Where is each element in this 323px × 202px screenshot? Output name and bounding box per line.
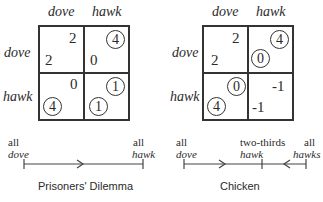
chicken-cell-dd-bottom: 2: [211, 53, 219, 68]
pd-row-label-dove: dove: [4, 45, 30, 61]
chicken-row-label-dove: dove: [172, 45, 198, 61]
chicken-line-mid-label-two-thirds: two-thirds: [240, 136, 285, 148]
chicken-cell-hh-top: -1: [272, 79, 285, 94]
pd-cell-dh-bottom: 0: [90, 53, 98, 68]
chicken-caption: Chicken: [220, 180, 260, 192]
pd-dynamics-line: [0, 155, 160, 173]
pd-payoff-matrix: 2 2 4 0 0 4 1 1: [38, 25, 130, 121]
chicken-line-right-label-all: all: [304, 136, 315, 148]
chicken-cell-hd-top-circled: 0: [227, 77, 246, 96]
pd-cell-dh-top-circled: 4: [106, 30, 125, 49]
chicken-dynamics-line: [160, 155, 323, 173]
chicken-cell-dh-top-circled: 4: [270, 30, 289, 49]
pd-col-label-dove: dove: [48, 4, 74, 20]
pd-line-right-label-all: all: [133, 136, 144, 148]
chicken-cell-hh-bottom: -1: [252, 100, 265, 115]
chicken-cell-hd-bottom-circled: 4: [207, 97, 226, 116]
chicken-col-label-hawk: hawk: [256, 4, 286, 20]
pd-cell-hh-top-circled: 1: [106, 77, 125, 96]
pd-cell-hh-bottom-circled: 1: [89, 97, 108, 116]
chicken-cell-dh-bottom-circled: 0: [251, 49, 270, 68]
pd-row-label-hawk: hawk: [3, 89, 33, 105]
pd-line-left-label-all: all: [8, 136, 19, 148]
pd-cell-hd-bottom-circled: 4: [43, 97, 62, 116]
chicken-line-left-label-all: all: [176, 136, 187, 148]
pd-matrix-divider-h: [40, 72, 128, 74]
chicken-row-label-hawk: hawk: [170, 89, 200, 105]
chicken-cell-dd-top: 2: [232, 31, 240, 46]
pd-caption: Prisoners' Dilemma: [38, 180, 133, 192]
chicken-col-label-dove: dove: [212, 4, 238, 20]
pd-cell-hd-top: 0: [70, 77, 78, 92]
pd-cell-dd-top: 2: [69, 31, 77, 46]
chicken-payoff-matrix: 2 2 4 0 0 4 -1 -1: [202, 25, 294, 121]
chicken-matrix-divider-h: [204, 72, 292, 74]
pd-col-label-hawk: hawk: [92, 4, 122, 20]
pd-cell-dd-bottom: 2: [45, 53, 53, 68]
